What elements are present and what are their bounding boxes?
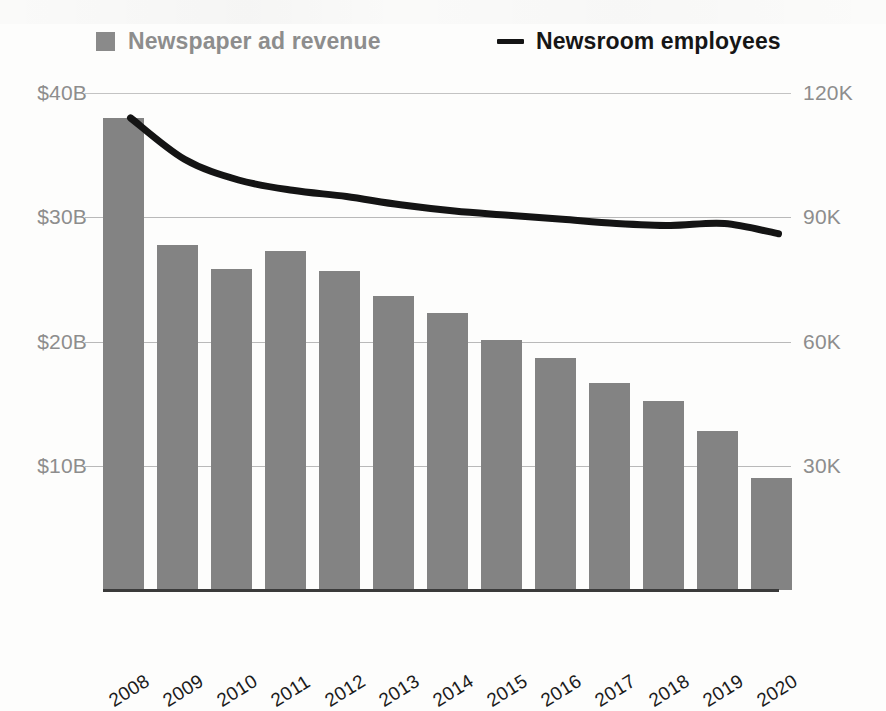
x-axis-tick-label: 2008	[105, 670, 154, 711]
x-axis-tick-label: 2016	[537, 670, 586, 711]
plot-area: $10B$20B$30B$40B30K60K90K120K20082009201…	[103, 93, 773, 590]
bar[interactable]	[535, 358, 576, 590]
bar[interactable]	[643, 401, 684, 590]
x-axis-tick-label: 2019	[699, 670, 748, 711]
bar[interactable]	[103, 118, 144, 590]
x-axis-tick-label: 2009	[159, 670, 208, 711]
x-axis-tick-label: 2020	[753, 670, 802, 711]
bar[interactable]	[589, 383, 630, 590]
x-axis-tick-label: 2013	[375, 670, 424, 711]
y-axis-right-tick-label: 90K	[803, 205, 841, 229]
y-axis-left-tick-label: $20B	[37, 330, 87, 354]
x-axis-tick-label: 2010	[213, 670, 262, 711]
bar[interactable]	[265, 251, 306, 590]
x-axis-tick-label: 2015	[483, 670, 532, 711]
x-axis-line	[103, 589, 779, 592]
y-axis-left-tick-label: $40B	[37, 81, 87, 105]
gridline	[85, 217, 791, 218]
x-axis-tick-label: 2012	[321, 670, 370, 711]
x-axis-tick-label: 2018	[645, 670, 694, 711]
bar[interactable]	[211, 269, 252, 590]
bar[interactable]	[373, 296, 414, 590]
y-axis-right-tick-label: 120K	[803, 81, 853, 105]
x-axis-tick-label: 2011	[267, 671, 314, 711]
bar[interactable]	[157, 245, 198, 590]
y-axis-right-tick-label: 30K	[803, 454, 841, 478]
bar[interactable]	[751, 478, 792, 590]
gridline	[85, 93, 791, 94]
y-axis-left-tick-label: $30B	[37, 205, 87, 229]
bar[interactable]	[481, 340, 522, 590]
y-axis-right-tick-label: 60K	[803, 330, 841, 354]
x-axis-tick-label: 2017	[591, 670, 640, 711]
x-axis-tick-label: 2014	[429, 670, 478, 711]
bar[interactable]	[697, 431, 738, 590]
bar[interactable]	[427, 313, 468, 590]
y-axis-left-tick-label: $10B	[37, 454, 87, 478]
bar[interactable]	[319, 271, 360, 590]
